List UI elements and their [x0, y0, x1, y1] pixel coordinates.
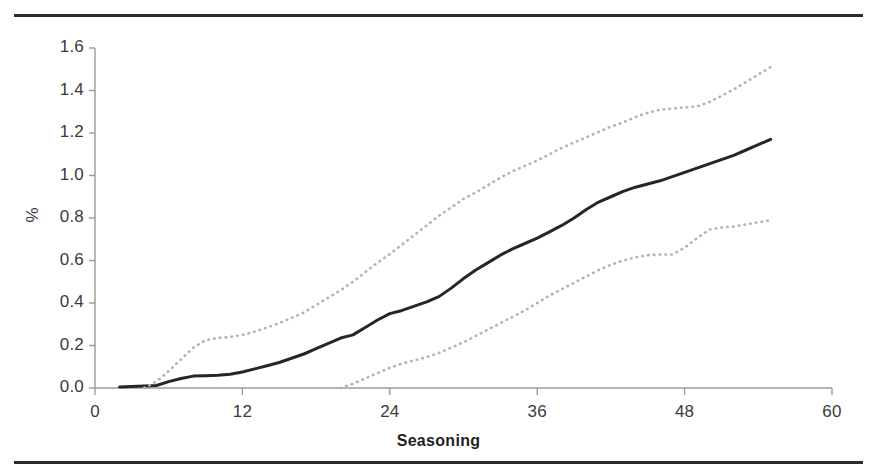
x-axis-tick-label: 0: [72, 402, 118, 422]
y-axis-tick-label: 0.2: [32, 335, 84, 355]
y-axis-tick-label: 1.4: [32, 80, 84, 100]
x-axis-tick-label: 12: [219, 402, 265, 422]
x-axis-title: Seasoning: [0, 432, 877, 450]
y-axis-title: %: [23, 200, 43, 230]
x-axis-tick-label: 60: [809, 402, 855, 422]
y-axis-tick-label: 0.0: [32, 377, 84, 397]
series-lower-confidence-limit: [341, 220, 771, 388]
y-axis-tick-label: 1.2: [32, 122, 84, 142]
x-axis-tick-label: 36: [514, 402, 560, 422]
x-axis-tick-label: 48: [662, 402, 708, 422]
y-axis-tick-label: 1.0: [32, 165, 84, 185]
x-axis-tick-label: 24: [367, 402, 413, 422]
line-chart-plot: [0, 0, 877, 470]
y-axis-tick-label: 0.6: [32, 250, 84, 270]
y-axis-tick-label: 1.6: [32, 37, 84, 57]
figure-container: 0.00.20.40.60.81.01.21.41.6 01224364860 …: [0, 0, 877, 470]
y-axis-tick-label: 0.4: [32, 292, 84, 312]
series-upper-confidence-limit: [144, 67, 770, 388]
